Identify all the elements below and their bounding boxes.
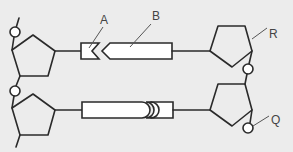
label-A: A — [100, 13, 108, 27]
backbone-bottom-left-tail — [16, 135, 20, 147]
dna-diagram: A B R Q — [0, 0, 293, 152]
leader-R — [252, 28, 267, 39]
sugar-bottom-left — [12, 94, 55, 135]
sugar-bottom-right — [210, 84, 252, 126]
backbone-right-link-lower — [245, 74, 247, 84]
base-top-small — [81, 43, 99, 59]
label-B: B — [152, 9, 160, 23]
base-bottom-large — [82, 102, 150, 118]
phosphate-bottom-right — [243, 123, 253, 133]
sugar-top-right — [210, 26, 252, 67]
backbone-left-link — [16, 76, 20, 86]
label-R: R — [269, 27, 278, 41]
phosphate-top-left — [10, 27, 20, 37]
base-top-large — [102, 43, 172, 59]
phosphate-mid-left — [10, 86, 20, 96]
sugar-top-left — [12, 35, 55, 76]
leader-Q — [253, 116, 269, 126]
phosphate-mid-right — [243, 64, 253, 74]
label-Q: Q — [271, 113, 280, 127]
